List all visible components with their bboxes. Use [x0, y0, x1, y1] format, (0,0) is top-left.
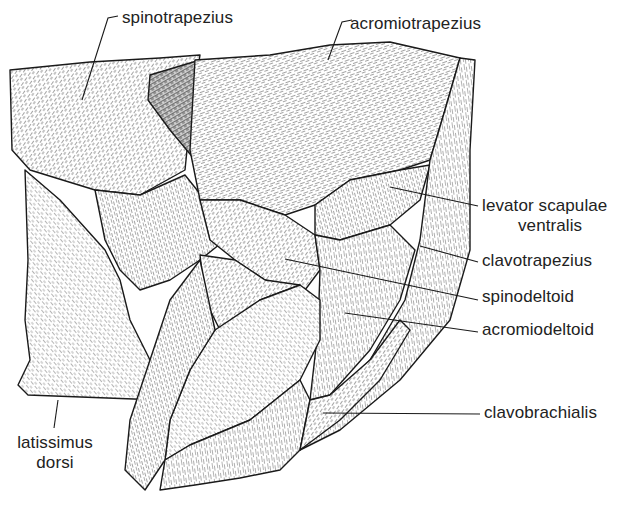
label-spinotrapezius: spinotrapezius — [122, 8, 233, 27]
label-clavobrachialis: clavobrachialis — [484, 403, 597, 422]
label-levator-scapulae-line1: levator scapulae — [482, 196, 607, 215]
label-acromiotrapezius: acromiotrapezius — [350, 14, 481, 33]
label-levator-scapulae-line2: ventralis — [518, 216, 582, 235]
label-spinodeltoid: spinodeltoid — [482, 287, 574, 306]
label-acromiodeltoid: acromiodeltoid — [482, 320, 594, 339]
label-latissimus-line2: dorsi — [14, 453, 96, 472]
muscle-group — [10, 42, 475, 490]
leader-latissimus — [54, 400, 58, 428]
label-clavotrapezius: clavotrapezius — [482, 251, 592, 270]
label-latissimus-line1: latissimus — [14, 433, 96, 452]
